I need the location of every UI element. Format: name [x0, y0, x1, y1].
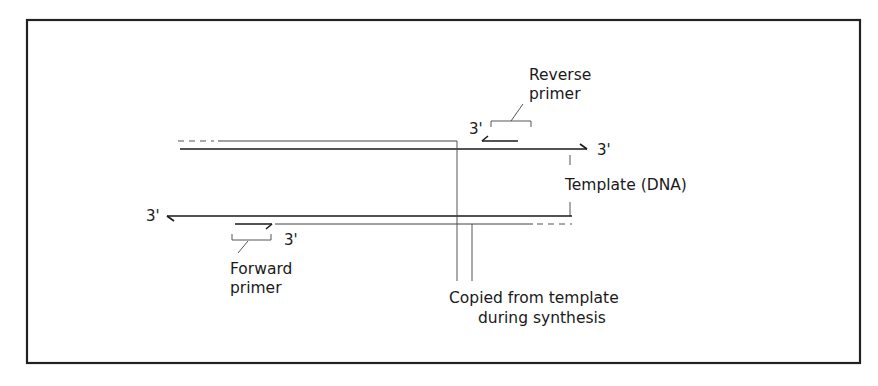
copied-guides: Copied from template during synthesis — [449, 141, 619, 327]
template-top-strand: 3' — [180, 141, 611, 159]
reverse-primer-label-1: Reverse — [529, 66, 591, 84]
pcr-diagram: 3' 3' Reverse primer Template (DNA) 3' 3… — [0, 0, 878, 386]
diagram-frame — [27, 20, 860, 363]
reverse-primer-bracket — [491, 121, 531, 127]
reverse-primer: 3' Reverse primer — [469, 66, 591, 141]
copied-label-2: during synthesis — [478, 309, 606, 327]
template-bottom-strand: 3' — [146, 207, 572, 225]
forward-primer: 3' Forward primer — [230, 224, 298, 297]
template-bottom-3prime: 3' — [146, 207, 160, 225]
forward-primer-bracket — [232, 234, 271, 240]
forward-primer-label-1: Forward — [230, 260, 292, 278]
reverse-primer-label-2: primer — [529, 85, 581, 103]
template-top-3prime: 3' — [597, 141, 611, 159]
forward-primer-label-2: primer — [230, 279, 282, 297]
template-bracket: Template (DNA) — [564, 155, 687, 216]
template-label: Template (DNA) — [564, 176, 687, 194]
reverse-primer-3prime: 3' — [469, 120, 483, 138]
copied-label-1: Copied from template — [449, 289, 619, 307]
forward-primer-3prime: 3' — [284, 231, 298, 249]
